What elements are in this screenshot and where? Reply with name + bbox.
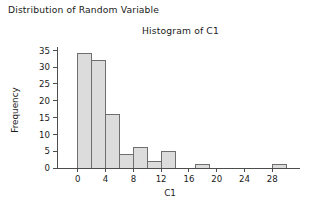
y-tick-label: 20 [39, 96, 50, 106]
histogram-bar [106, 114, 120, 168]
x-tick-label: 16 [183, 174, 194, 184]
y-axis-ticks: 05101520253035 [39, 46, 57, 174]
y-tick-label: 5 [45, 146, 50, 156]
histogram-bar [196, 165, 210, 168]
x-tick-label: 28 [267, 174, 278, 184]
y-tick-label: 35 [39, 46, 50, 56]
x-axis-label: C1 [164, 188, 176, 198]
y-tick-label: 30 [39, 62, 50, 72]
y-tick-label: 0 [45, 163, 50, 173]
x-tick-label: 4 [103, 174, 108, 184]
histogram-bar [147, 161, 161, 168]
y-tick-label: 25 [39, 79, 50, 89]
y-tick-label: 10 [39, 130, 50, 140]
y-axis-label: Frequency [10, 87, 20, 132]
x-tick-label: 24 [239, 174, 250, 184]
histogram-bar [92, 60, 106, 168]
y-tick-label: 15 [39, 113, 50, 123]
histogram-bar [272, 165, 286, 168]
x-tick-label: 20 [211, 174, 222, 184]
x-axis-ticks: 0481216202428 [75, 168, 278, 184]
histogram-bar [161, 151, 175, 168]
x-tick-label: 8 [131, 174, 136, 184]
histogram-bar [119, 155, 133, 168]
histogram-bar [78, 54, 92, 168]
x-tick-label: 0 [75, 174, 80, 184]
histogram-figure: Distribution of Random Variable Histogra… [0, 0, 319, 202]
bars-group [78, 54, 286, 168]
histogram-bar [133, 148, 147, 168]
x-tick-label: 12 [156, 174, 167, 184]
histogram-plot: 0481216202428 05101520253035 C1 Frequenc… [0, 0, 319, 202]
